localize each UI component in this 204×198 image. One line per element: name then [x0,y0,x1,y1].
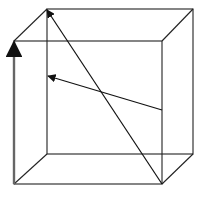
face-vector-arrow [48,76,162,110]
edge-bottom-left [14,154,47,184]
front-face [14,41,162,184]
edge-bottom-right [162,154,193,184]
edge-top-left [14,9,47,41]
space-diagonal-arrow [47,10,162,184]
cube-diagram [0,0,204,198]
back-face [47,9,193,154]
edge-top-right [162,9,193,41]
